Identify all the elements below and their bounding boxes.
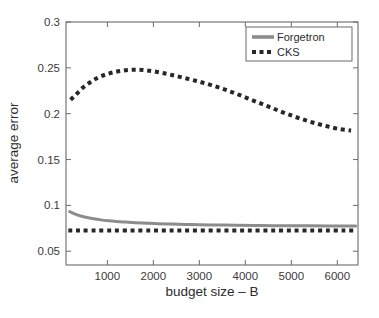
chart-legend[interactable]: ForgetronCKS [246,27,352,61]
x-axis-title: budget size – B [165,284,258,299]
x-tick-label: 3000 [187,270,213,282]
x-tick-label: 6000 [325,270,351,282]
legend-label-forgetron: Forgetron [277,31,325,43]
chart-canvas: 100020003000400050006000 0.050.10.150.20… [0,0,379,318]
y-tick-label: 0.15 [38,154,60,166]
y-tick-label: 0.25 [38,62,60,74]
y-tick-label: 0.1 [44,199,60,211]
x-tick-label: 1000 [95,270,121,282]
x-tick-label: 2000 [141,270,167,282]
y-axis-title: average error [6,102,21,184]
x-tick-label: 5000 [279,270,305,282]
figure-container: 100020003000400050006000 0.050.10.150.20… [0,0,379,318]
y-tick-label: 0.2 [44,108,60,120]
x-tick-label: 4000 [233,270,259,282]
y-tick-label: 0.3 [44,16,60,28]
y-tick-label: 0.05 [38,245,60,257]
legend-label-cks: CKS [277,46,300,58]
